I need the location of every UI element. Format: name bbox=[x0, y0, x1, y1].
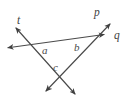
line-t bbox=[16, 28, 75, 94]
angle-label-a: a bbox=[42, 45, 48, 56]
line-label-t: t bbox=[17, 15, 20, 27]
geometry-figure-canvas: t p q a b c bbox=[0, 0, 132, 108]
line-p bbox=[46, 24, 110, 91]
angle-label-c: c bbox=[53, 62, 58, 73]
line-label-p: p bbox=[94, 7, 100, 19]
line-label-q: q bbox=[114, 30, 120, 42]
angle-label-b: b bbox=[74, 42, 80, 53]
